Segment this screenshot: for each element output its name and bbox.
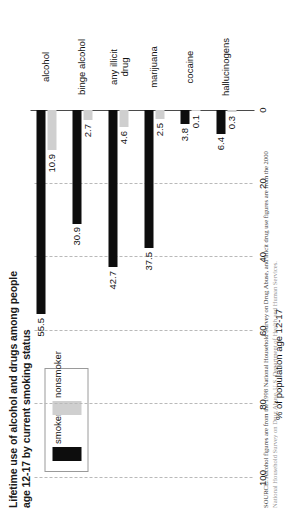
value-label-cocaine-nonsmoker: 0.1 — [190, 115, 200, 128]
category-label-any-illicit-drug: any illicit drug — [108, 24, 129, 110]
value-label-hallucinogens-smoker: 6.4 — [215, 137, 225, 150]
value-label-any-illicit-drug-nonsmoker: 4.6 — [118, 131, 128, 144]
category-label-marijuana: marijuana — [148, 24, 159, 110]
source-note: SOURCE: Alcohol figures are from the 199… — [262, 8, 277, 508]
category-label-cocaine-line-1: cocaine — [183, 51, 194, 84]
chart-title: Lifetime use of alcohol and drugs among … — [6, 128, 31, 508]
source-note-line-2: National Household Survey on Drug Abuse,… — [270, 8, 278, 508]
value-label-alcohol-nonsmoker: 10.9 — [46, 154, 56, 173]
bar-hallucinogens-nonsmoker[interactable] — [227, 110, 236, 112]
category-label-any-illicit-drug-line-2: drug — [119, 24, 130, 110]
gridline-100 — [34, 477, 252, 478]
category-label-binge-alcohol: binge alcohol — [76, 24, 87, 110]
value-label-binge-alcohol-smoker: 30.9 — [71, 227, 81, 246]
source-note-line-1: SOURCE: Alcohol figures are from the 199… — [262, 8, 270, 508]
chart-title-line-2: age 12-17 by current smoking status — [19, 128, 32, 508]
category-label-marijuana-line-1: marijuana — [147, 46, 158, 88]
value-label-binge-alcohol-nonsmoker: 2.7 — [82, 124, 92, 137]
category-label-hallucinogens-line-1: hallucinogens — [219, 38, 230, 96]
category-label-alcohol-line-1: alcohol — [39, 52, 50, 82]
value-label-marijuana-smoker: 37.5 — [143, 252, 153, 271]
value-label-alcohol-smoker: 55.5 — [35, 318, 45, 337]
value-label-cocaine-smoker: 3.8 — [179, 128, 189, 141]
bar-alcohol-smoker[interactable] — [36, 110, 45, 314]
bar-binge-alcohol-nonsmoker[interactable] — [83, 110, 92, 120]
category-label-cocaine: cocaine — [184, 24, 195, 110]
bar-binge-alcohol-smoker[interactable] — [72, 110, 81, 224]
gridline-20 — [34, 183, 252, 184]
plot-area: 55.5 10.9 30.9 2.7 42.7 4.6 37.5 2.5 — [34, 110, 252, 478]
chart-title-line-1: Lifetime use of alcohol and drugs among … — [6, 128, 19, 508]
bar-any-illicit-drug-nonsmoker[interactable] — [119, 110, 128, 127]
bar-cocaine-nonsmoker[interactable] — [191, 110, 200, 112]
bar-marijuana-nonsmoker[interactable] — [155, 110, 164, 119]
category-labels: alcohol binge alcohol any illicit drug m… — [34, 24, 252, 110]
gridline-80 — [34, 403, 252, 404]
category-label-any-illicit-drug-line-1: any illicit — [108, 24, 119, 110]
bar-cocaine-smoker[interactable] — [180, 110, 189, 124]
bar-any-illicit-drug-smoker[interactable] — [108, 110, 117, 267]
gridline-60 — [34, 330, 252, 331]
value-label-hallucinogens-nonsmoker: 0.3 — [226, 116, 236, 129]
bar-alcohol-nonsmoker[interactable] — [47, 110, 56, 150]
bar-hallucinogens-smoker[interactable] — [216, 110, 225, 134]
category-label-alcohol: alcohol — [40, 24, 51, 110]
chart-figure: Lifetime use of alcohol and drugs among … — [0, 0, 303, 516]
value-label-any-illicit-drug-smoker: 42.7 — [107, 271, 117, 290]
category-label-binge-alcohol-line-1: binge alcohol — [75, 39, 86, 95]
value-label-marijuana-nonsmoker: 2.5 — [154, 123, 164, 136]
category-label-hallucinogens: hallucinogens — [220, 24, 231, 110]
bar-marijuana-smoker[interactable] — [144, 110, 153, 248]
figure-page: Lifetime use of alcohol and drugs among … — [0, 0, 303, 516]
